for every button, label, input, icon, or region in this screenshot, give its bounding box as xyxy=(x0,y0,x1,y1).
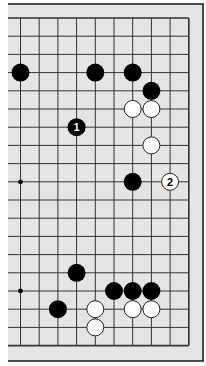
black-stone xyxy=(68,264,86,282)
black-stone xyxy=(142,82,160,100)
black-stone xyxy=(124,173,142,191)
black-stone xyxy=(105,282,123,300)
go-board: 12 xyxy=(0,0,206,366)
black-stone xyxy=(12,64,30,82)
black-stone xyxy=(124,282,142,300)
white-stone: 2 xyxy=(162,173,179,190)
black-stone xyxy=(49,300,67,318)
hoshi-point xyxy=(18,179,23,184)
white-stone xyxy=(87,319,104,336)
white-stone xyxy=(143,101,160,118)
white-stone xyxy=(143,137,160,154)
black-stone xyxy=(142,282,160,300)
white-stone xyxy=(87,301,104,318)
white-stone xyxy=(143,301,160,318)
black-stone: 1 xyxy=(68,118,86,136)
hoshi-point xyxy=(18,289,23,294)
move-number-label: 2 xyxy=(167,176,173,188)
black-stone xyxy=(86,64,104,82)
white-stone xyxy=(124,101,141,118)
move-number-label: 1 xyxy=(74,121,80,133)
white-stone xyxy=(124,301,141,318)
black-stone xyxy=(124,64,142,82)
